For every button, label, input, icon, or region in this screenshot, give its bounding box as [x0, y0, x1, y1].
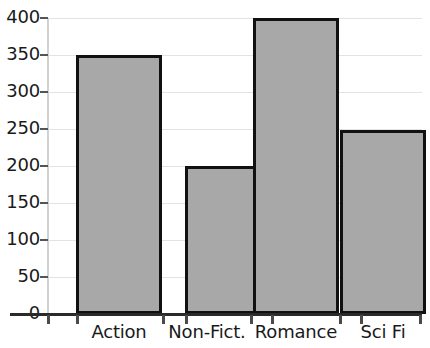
y-axis-tick-label: 400 [0, 8, 40, 26]
y-tickmark-400 [40, 17, 48, 19]
y-axis-tick-label: 50 [0, 267, 40, 285]
bar-sci-fi [340, 130, 426, 314]
y-tickmark-50 [40, 276, 48, 278]
gridline-400 [47, 18, 422, 19]
y-tickmark-100 [40, 239, 48, 241]
bar-romance [253, 18, 339, 314]
y-tickmark-150 [40, 202, 48, 204]
y-axis-tick-label: 300 [0, 82, 40, 100]
y-axis-tick-label: 200 [0, 156, 40, 174]
y-tickmark-300 [40, 91, 48, 93]
y-tickmark-200 [40, 165, 48, 167]
bar-action [76, 55, 162, 314]
y-axis-tick-label: 150 [0, 193, 40, 211]
y-tickmark-250 [40, 128, 48, 130]
y-axis-tick-label: 100 [0, 230, 40, 248]
y-axis-tick-label: 250 [0, 119, 40, 137]
x-tickmark [47, 315, 50, 324]
x-axis-tick-label: Sci Fi [328, 322, 430, 342]
y-tickmark-350 [40, 54, 48, 56]
y-axis-tick-label: 350 [0, 45, 40, 63]
